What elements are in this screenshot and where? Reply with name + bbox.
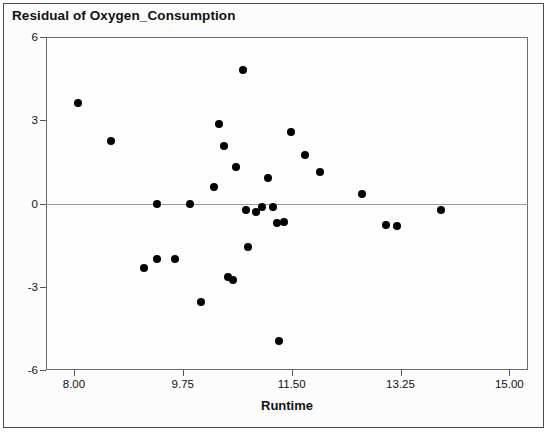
scatter-point [244, 243, 252, 251]
y-axis-tick [40, 370, 46, 371]
x-axis-tick-label: 8.00 [44, 378, 104, 390]
y-axis-tick-label: -3 [8, 281, 38, 293]
y-axis-tick [40, 204, 46, 205]
y-axis-tick-label: 6 [8, 31, 38, 43]
y-axis-tick-label: -6 [8, 364, 38, 376]
y-axis-tick-label: 0 [8, 198, 38, 210]
scatter-point [316, 168, 324, 176]
scatter-point [140, 264, 148, 272]
x-axis-tick [509, 370, 510, 376]
x-axis-tick-label: 13.25 [371, 378, 431, 390]
scatter-point [280, 218, 288, 226]
y-axis-tick [40, 37, 46, 38]
scatter-point [171, 255, 179, 263]
scatter-point [186, 200, 194, 208]
scatter-point [242, 206, 250, 214]
scatter-point [232, 163, 240, 171]
scatter-point [197, 298, 205, 306]
x-axis-tick [401, 370, 402, 376]
plot-area [46, 37, 528, 370]
scatter-point [275, 337, 283, 345]
x-axis-labels: 8.009.7511.5013.2515.00 [46, 378, 528, 394]
scatter-point [239, 66, 247, 74]
scatter-point [264, 174, 272, 182]
y-axis-tick-label: 3 [8, 114, 38, 126]
scatter-point [215, 120, 223, 128]
x-axis-tick-label: 15.00 [479, 378, 539, 390]
scatter-point [153, 255, 161, 263]
scatter-point [210, 183, 218, 191]
x-axis-tick [292, 370, 293, 376]
scatter-point [229, 276, 237, 284]
x-axis-tick [183, 370, 184, 376]
page-title: Residual of Oxygen_Consumption [12, 8, 236, 23]
scatter-point [393, 222, 401, 230]
x-axis-tick [74, 370, 75, 376]
scatter-point [153, 200, 161, 208]
scatter-point [437, 206, 445, 214]
scatter-point [287, 128, 295, 136]
scatter-point [258, 203, 266, 211]
scatter-point [301, 151, 309, 159]
scatter-point [358, 190, 366, 198]
y-axis-labels: -6-3036 [8, 37, 38, 370]
scatter-point [74, 99, 82, 107]
x-axis-title: Runtime [46, 398, 528, 413]
zero-reference-line [46, 204, 528, 205]
y-axis-tick [40, 120, 46, 121]
residual-plot-figure: Residual of Oxygen_Consumption -6-3036 8… [0, 0, 548, 432]
scatter-point [269, 203, 277, 211]
y-axis-tick [40, 287, 46, 288]
scatter-point [107, 137, 115, 145]
x-axis-tick-label: 9.75 [153, 378, 213, 390]
scatter-point [220, 142, 228, 150]
x-axis-tick-label: 11.50 [262, 378, 322, 390]
scatter-point [382, 221, 390, 229]
